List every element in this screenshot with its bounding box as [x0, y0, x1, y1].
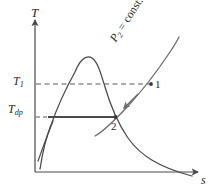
- state-point-2-marker: [114, 115, 118, 119]
- state-point-2-label: 2: [111, 121, 117, 132]
- tick-label-t1-main: T: [13, 74, 20, 88]
- tick-label-tdp-main: T: [8, 102, 15, 116]
- tick-label-tdp-subscript: dp: [15, 108, 23, 117]
- process-direction-arrow: [124, 94, 138, 108]
- y-axis-label: T: [31, 6, 38, 19]
- liquid-isobar-segment: [38, 121, 53, 161]
- ts-diagram-figure: T s T1 Tdp 1 2 P2 = const.: [0, 0, 214, 193]
- state-point-1-label: 1: [155, 79, 161, 90]
- diagram-canvas: [0, 0, 214, 193]
- x-axis-label: s: [201, 174, 206, 186]
- tick-label-tdp: Tdp: [8, 103, 23, 117]
- state-point-1-marker: [149, 82, 153, 86]
- tick-label-t1-subscript: 1: [20, 80, 24, 89]
- isobar-curve: [95, 37, 179, 136]
- tick-label-t1: T1: [13, 75, 24, 89]
